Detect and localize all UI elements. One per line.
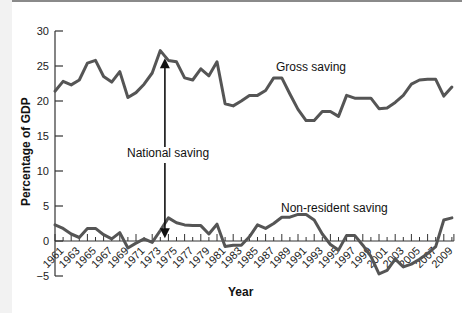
y-axis: −5051015202530 (36, 25, 63, 282)
gross-saving-line (55, 51, 452, 121)
y-tick-label: 0 (43, 235, 49, 247)
non-resident-saving-label: Non-resident saving (281, 201, 388, 215)
national-saving-label: National saving (127, 146, 209, 160)
y-tick-label: 10 (37, 165, 49, 177)
gross-saving-label: Gross saving (276, 60, 346, 74)
y-tick-label: −5 (36, 270, 49, 282)
saving-line-chart: −5051015202530 1961196319651967196919711… (0, 0, 468, 313)
x-axis-title: Year (228, 285, 254, 299)
y-tick-label: 15 (37, 130, 49, 142)
y-tick-label: 5 (43, 200, 49, 212)
y-tick-label: 25 (37, 60, 49, 72)
y-tick-label: 20 (37, 95, 49, 107)
y-axis-title: Percentage of GDP (19, 97, 33, 206)
y-tick-label: 30 (37, 25, 49, 37)
